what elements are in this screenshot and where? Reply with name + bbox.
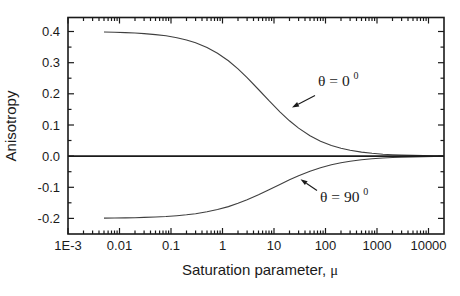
curve-theta-0 [104,32,444,156]
y-tick-label: -0.1 [38,180,60,195]
y-tick-label: 0.3 [42,55,60,70]
x-tick-label: 100 [315,238,337,253]
theta-0-arrow [292,96,315,108]
x-axis-title-main: Saturation parameter, [182,261,330,278]
y-tick-label: 0.0 [42,149,60,164]
theta-90-label-sup: 0 [363,186,368,197]
axis-tick-labels: 1E-30.010.1110100100010000-0.2-0.10.00.1… [38,24,447,253]
anisotropy-chart: 1E-30.010.1110100100010000-0.2-0.10.00.1… [0,0,460,296]
theta-90-arrow [301,179,318,190]
y-tick-label: 0.4 [42,24,60,39]
theta-90-label-base: θ = 90 [320,188,360,205]
y-axis-title: Anisotropy [2,90,19,161]
x-tick-label: 1000 [363,238,392,253]
theta-0-label-base: θ = 0 [318,72,350,89]
y-tick-label: 0.1 [42,118,60,133]
x-tick-label: 1 [219,238,226,253]
x-tick-label: 10000 [410,238,446,253]
x-tick-label: 1E-3 [54,238,81,253]
plot-frame [68,18,444,235]
x-tick-label: 10 [267,238,281,253]
x-tick-label: 0.1 [162,238,180,253]
theta-0-label: θ = 0 0 [318,70,359,89]
x-axis-title: Saturation parameter, μ [182,261,338,278]
theta-0-arrowhead [292,102,299,107]
theta-90-arrowhead [301,179,308,185]
x-tick-label: 0.01 [107,238,132,253]
mu-symbol: μ [330,262,338,278]
curve-theta-90 [104,156,444,218]
y-tick-label: 0.2 [42,86,60,101]
theta-0-label-sup: 0 [354,70,359,81]
theta-90-label: θ = 90 0 [320,186,368,205]
data-curves [68,32,444,218]
axis-ticks [68,18,444,235]
figure-container: 1E-30.010.1110100100010000-0.2-0.10.00.1… [0,0,460,296]
y-tick-label: -0.2 [38,211,60,226]
